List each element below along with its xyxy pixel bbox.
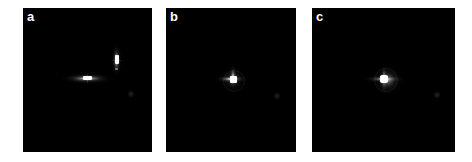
panel-a-vertical-streak-inner	[114, 49, 119, 71]
panel-c-vertical-spike	[380, 64, 388, 94]
panel-a-horizontal-streak-cross-tick	[86, 70, 89, 87]
panel-a-horizontal-streak-inner	[71, 76, 103, 81]
panel-b-faint-ring	[223, 70, 245, 92]
panel-b: b	[166, 8, 296, 152]
panel-label-b: b	[170, 9, 178, 24]
panel-a-horizontal-streak	[61, 73, 113, 84]
panel-b-vertical-spike-inner	[231, 68, 235, 86]
panel-a-horizontal-streak-core	[83, 76, 92, 80]
figure-canvas: a b	[0, 0, 472, 162]
panel-c-central-glow	[373, 65, 403, 95]
panel-a-faint-dot	[127, 90, 135, 98]
panel-label-a: a	[27, 9, 34, 24]
panel-c-faint-dot	[433, 91, 441, 99]
panel-c: c	[312, 8, 455, 152]
panel-a-vertical-streak-satellite	[115, 68, 118, 70]
panel-c-central-core	[380, 75, 388, 83]
panel-b-horizontal-spike-inner	[220, 77, 240, 81]
panel-a-vertical-streak	[111, 43, 122, 77]
panel-b-central-glow	[220, 66, 246, 92]
panel-c-vertical-spike-inner	[382, 68, 386, 88]
panel-b-central-core	[230, 76, 237, 83]
panel-a-vertical-streak-cross-tick	[109, 59, 125, 62]
panel-b-vertical-spike	[229, 64, 237, 90]
panel-label-c: c	[316, 9, 323, 24]
panel-a-vertical-streak-core	[115, 55, 119, 64]
panel-b-faint-dot	[273, 92, 281, 100]
panel-c-horizontal-spike-inner	[372, 77, 396, 81]
panel-a: a	[23, 8, 152, 152]
panel-b-horizontal-spike	[214, 75, 248, 83]
panel-c-horizontal-spike	[363, 75, 405, 83]
panel-c-faint-ring	[374, 68, 398, 92]
